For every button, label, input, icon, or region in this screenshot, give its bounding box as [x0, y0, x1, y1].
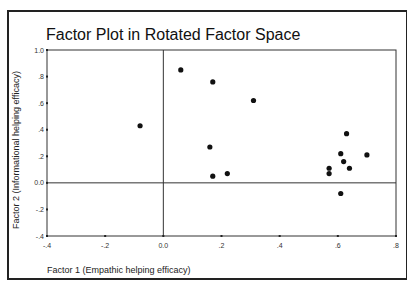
- data-point: [341, 159, 346, 164]
- data-point: [207, 144, 212, 149]
- x-tick-label: .2: [219, 242, 225, 249]
- data-point: [338, 151, 343, 156]
- y-axis-label: Factor 2 (Informational helping efficacy…: [11, 71, 21, 229]
- data-point: [210, 79, 215, 84]
- x-axis-label: Factor 1 (Empathic helping efficacy): [47, 265, 190, 275]
- x-tick-mark: [104, 235, 106, 237]
- data-point: [327, 166, 332, 171]
- data-point: [225, 171, 230, 176]
- y-tick-mark: [46, 49, 48, 51]
- data-point: [210, 174, 215, 179]
- plot-area-border: [47, 50, 396, 236]
- x-tick-label: -.2: [101, 242, 109, 249]
- y-tick-mark: [46, 235, 48, 237]
- x-tick-mark: [279, 235, 281, 237]
- data-point: [338, 191, 343, 196]
- y-tick-label: 1.0: [34, 47, 44, 54]
- data-point: [327, 171, 332, 176]
- y-tick-mark: [46, 182, 48, 184]
- x-tick-label: 0.0: [158, 242, 168, 249]
- x-tick-label: -.4: [43, 242, 51, 249]
- data-point: [347, 166, 352, 171]
- y-tick-label: .2: [38, 153, 44, 160]
- data-point: [344, 131, 349, 136]
- y-tick-label: .4: [38, 126, 44, 133]
- data-point: [178, 67, 183, 72]
- y-tick-label: -.2: [36, 206, 44, 213]
- y-tick-label: .8: [38, 73, 44, 80]
- x-tick-mark: [337, 235, 339, 237]
- y-tick-mark: [46, 208, 48, 210]
- y-tick-mark: [46, 102, 48, 104]
- y-tick-mark: [46, 76, 48, 78]
- data-point: [137, 123, 142, 128]
- x-tick-label: .8: [393, 242, 399, 249]
- x-tick-mark: [162, 235, 164, 237]
- y-tick-label: .6: [38, 100, 44, 107]
- y-tick-mark: [46, 155, 48, 157]
- y-tick-label: 0.0: [34, 179, 44, 186]
- data-point: [251, 98, 256, 103]
- y-tick-mark: [46, 129, 48, 131]
- data-point: [364, 152, 369, 157]
- x-tick-mark: [221, 235, 223, 237]
- x-tick-mark: [395, 235, 397, 237]
- scatter-plot: -.4-.20.0.2.4.6.8-.4-.20.0.2.4.6.81.0: [0, 0, 413, 288]
- y-tick-label: -.4: [36, 233, 44, 240]
- x-tick-label: .6: [335, 242, 341, 249]
- x-tick-label: .4: [277, 242, 283, 249]
